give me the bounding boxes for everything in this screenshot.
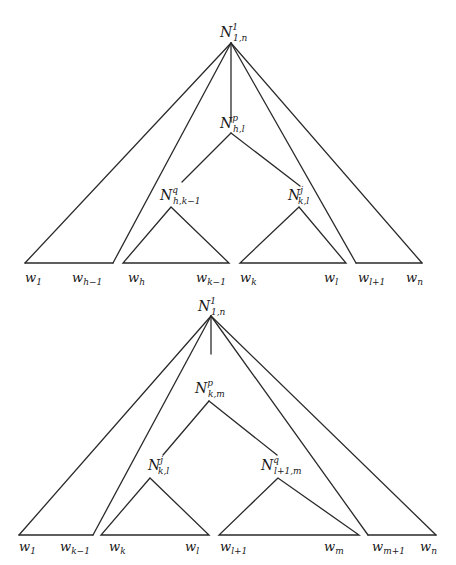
edge-root-wn bbox=[211, 316, 436, 535]
edge-middle-right bbox=[209, 401, 277, 455]
leaf-label: wk−1 bbox=[60, 539, 90, 556]
edge-middle-right bbox=[231, 133, 300, 186]
leaf-label: wl+1 bbox=[220, 539, 247, 556]
parse-tree-figure: N11,n Nph,l Nqh,k−1 Njk,l w1 wh−1 wh wk−… bbox=[0, 0, 456, 565]
leaf-label: wn bbox=[420, 539, 437, 556]
node-right-child-label: Nql+1,m bbox=[260, 455, 302, 476]
edge-middle-left bbox=[163, 401, 209, 455]
leaf-label: wm bbox=[324, 539, 344, 556]
leaf-label: wk−1 bbox=[196, 270, 226, 287]
node-right-child-label: Njk,l bbox=[287, 185, 309, 206]
node-middle-label: Nph,l bbox=[219, 113, 245, 134]
leaf-label: wk bbox=[240, 270, 257, 287]
leaf-label: wk bbox=[109, 539, 126, 556]
leaf-label: wl+1 bbox=[358, 270, 385, 287]
leaf-label: wm+1 bbox=[372, 539, 405, 556]
leaf-label: w1 bbox=[25, 270, 42, 287]
subtree-left bbox=[101, 478, 209, 535]
edge-root-wn bbox=[231, 43, 422, 263]
leaf-label: wl bbox=[324, 270, 338, 287]
edge-root-wk-1 bbox=[93, 316, 211, 535]
leaf-label: wl bbox=[185, 539, 199, 556]
edge-middle-left bbox=[182, 133, 231, 182]
node-middle-label: Npk,m bbox=[194, 378, 225, 399]
subtree-right bbox=[240, 207, 346, 263]
leaf-label: wn bbox=[406, 270, 423, 287]
edge-root-wh-1 bbox=[113, 43, 231, 263]
node-root-label: N11,n bbox=[197, 296, 226, 317]
edge-root-w1 bbox=[25, 43, 231, 263]
node-left-child-label: Njk,l bbox=[147, 455, 169, 476]
subtree-right bbox=[219, 478, 359, 535]
edge-root-wm+1 bbox=[211, 316, 368, 535]
node-left-child-label: Nqh,k−1 bbox=[159, 185, 200, 206]
leaf-label: wh bbox=[128, 270, 145, 287]
tree-bottom: N11,n Npk,m Njk,l Nql+1,m w1 wk−1 wk wl … bbox=[19, 296, 437, 556]
leaf-label: wh−1 bbox=[72, 270, 102, 287]
node-root-label: N11,n bbox=[219, 22, 248, 43]
leaf-label: w1 bbox=[19, 539, 36, 556]
edge-root-wl+1 bbox=[231, 43, 356, 263]
edge-root-w1 bbox=[19, 316, 211, 535]
tree-top: N11,n Nph,l Nqh,k−1 Njk,l w1 wh−1 wh wk−… bbox=[25, 22, 423, 287]
